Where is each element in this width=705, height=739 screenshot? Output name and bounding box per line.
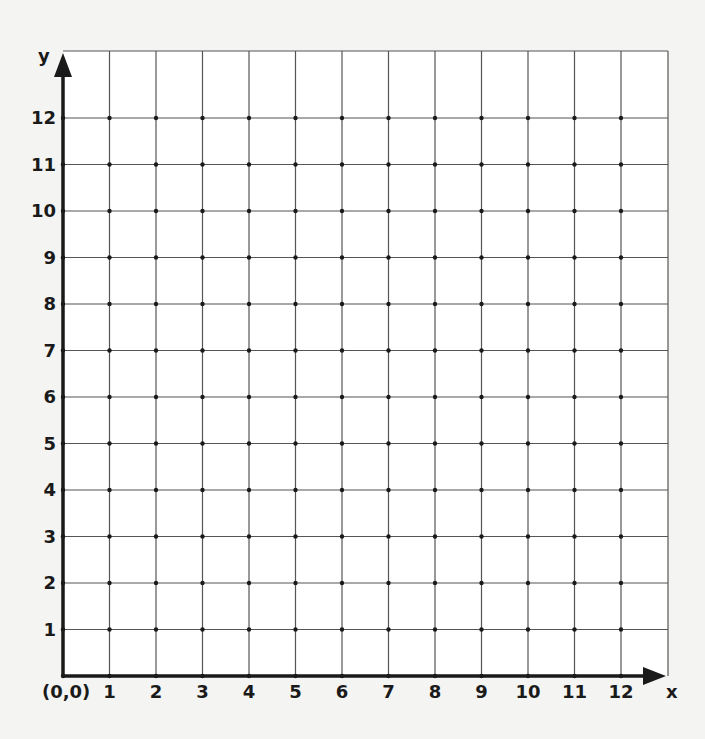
x-axis-label: x <box>666 681 678 702</box>
lattice-point <box>433 255 437 259</box>
x-tick-label: 2 <box>150 681 163 702</box>
lattice-point <box>247 581 251 585</box>
plot-area <box>63 51 668 676</box>
lattice-point <box>247 162 251 166</box>
lattice-point <box>572 209 576 213</box>
lattice-point <box>293 348 297 352</box>
lattice-point <box>572 441 576 445</box>
lattice-point <box>340 395 344 399</box>
lattice-point <box>619 209 623 213</box>
lattice-point <box>526 348 530 352</box>
lattice-point <box>526 162 530 166</box>
lattice-point <box>154 255 158 259</box>
lattice-point <box>293 581 297 585</box>
lattice-point <box>200 348 204 352</box>
lattice-point <box>247 534 251 538</box>
lattice-point <box>386 116 390 120</box>
lattice-point <box>154 627 158 631</box>
lattice-point <box>386 302 390 306</box>
x-tick-label: 5 <box>289 681 302 702</box>
lattice-point <box>386 441 390 445</box>
lattice-point <box>293 209 297 213</box>
lattice-point <box>479 116 483 120</box>
lattice-point <box>572 581 576 585</box>
y-tick-label: 11 <box>31 154 56 175</box>
lattice-point <box>200 627 204 631</box>
lattice-point <box>154 162 158 166</box>
y-tick-label: 5 <box>43 433 56 454</box>
lattice-point <box>386 255 390 259</box>
lattice-point <box>340 581 344 585</box>
lattice-point <box>572 302 576 306</box>
lattice-point <box>200 162 204 166</box>
lattice-point <box>479 348 483 352</box>
lattice-point <box>479 209 483 213</box>
lattice-point <box>200 534 204 538</box>
lattice-point <box>386 627 390 631</box>
lattice-point <box>386 209 390 213</box>
lattice-point <box>154 348 158 352</box>
x-tick-label: 4 <box>243 681 256 702</box>
lattice-point <box>526 395 530 399</box>
x-tick-label: 3 <box>196 681 209 702</box>
lattice-point <box>572 395 576 399</box>
lattice-point <box>479 581 483 585</box>
y-tick-label: 4 <box>43 479 56 500</box>
lattice-point <box>619 534 623 538</box>
lattice-point <box>479 255 483 259</box>
lattice-point <box>107 441 111 445</box>
lattice-point <box>154 488 158 492</box>
lattice-point <box>340 627 344 631</box>
lattice-point <box>619 162 623 166</box>
lattice-point <box>247 255 251 259</box>
lattice-point <box>479 441 483 445</box>
lattice-point <box>107 627 111 631</box>
y-tick-label: 7 <box>43 340 56 361</box>
y-tick-label: 6 <box>43 386 56 407</box>
lattice-point <box>619 116 623 120</box>
lattice-point <box>433 302 437 306</box>
lattice-point <box>107 348 111 352</box>
lattice-point <box>154 534 158 538</box>
lattice-point <box>479 534 483 538</box>
lattice-point <box>293 162 297 166</box>
lattice-point <box>433 627 437 631</box>
lattice-point <box>433 162 437 166</box>
coordinate-grid-figure: 123456789101112 123456789101112 x y (0,0… <box>0 0 705 739</box>
x-tick-label: 1 <box>103 681 116 702</box>
lattice-point <box>107 255 111 259</box>
lattice-point <box>200 581 204 585</box>
y-tick-label: 8 <box>43 293 56 314</box>
lattice-point <box>154 581 158 585</box>
lattice-point <box>619 581 623 585</box>
lattice-point <box>526 581 530 585</box>
lattice-point <box>433 488 437 492</box>
lattice-point <box>340 441 344 445</box>
lattice-point <box>200 302 204 306</box>
coordinate-grid-chart: 123456789101112 123456789101112 x y (0,0… <box>0 0 705 739</box>
lattice-point <box>386 534 390 538</box>
lattice-point <box>572 255 576 259</box>
lattice-point <box>386 581 390 585</box>
y-tick-label: 3 <box>43 526 56 547</box>
x-tick-label: 7 <box>382 681 395 702</box>
y-tick-label: 9 <box>43 247 56 268</box>
lattice-point <box>107 581 111 585</box>
y-tick-label: 1 <box>43 619 56 640</box>
lattice-point <box>340 255 344 259</box>
lattice-point <box>526 255 530 259</box>
lattice-point <box>154 209 158 213</box>
lattice-point <box>293 395 297 399</box>
lattice-point <box>433 116 437 120</box>
lattice-point <box>293 534 297 538</box>
lattice-point <box>107 534 111 538</box>
lattice-point <box>619 488 623 492</box>
lattice-point <box>154 441 158 445</box>
lattice-point <box>479 302 483 306</box>
lattice-point <box>572 162 576 166</box>
lattice-point <box>619 348 623 352</box>
lattice-point <box>293 302 297 306</box>
lattice-point <box>386 395 390 399</box>
lattice-point <box>433 348 437 352</box>
lattice-point <box>433 395 437 399</box>
